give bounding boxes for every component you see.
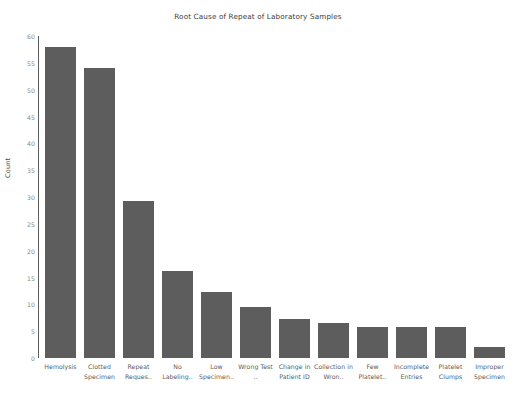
x-tick-label: Platelet Clumps	[431, 362, 471, 381]
y-tick-label: 10	[13, 301, 35, 308]
bar[interactable]	[45, 47, 76, 358]
bar[interactable]	[84, 68, 115, 358]
bar[interactable]	[162, 271, 193, 358]
bar[interactable]	[318, 323, 349, 358]
bar-slot	[314, 36, 353, 358]
y-tick-label: 50	[13, 86, 35, 93]
bar[interactable]	[396, 327, 427, 358]
y-tick-label: 30	[13, 194, 35, 201]
bar-slot	[275, 36, 314, 358]
x-tick-label: Low Specimen..	[197, 362, 237, 381]
y-tick-label: 15	[13, 274, 35, 281]
bar-chart-figure: Root Cause of Repeat of Laboratory Sampl…	[0, 0, 516, 410]
x-tick-label: Repeat Reques..	[119, 362, 159, 381]
y-axis-label-text: Count	[4, 158, 12, 178]
y-axis-spine	[38, 36, 39, 358]
y-tick-label: 5	[13, 328, 35, 335]
bar-slot	[197, 36, 236, 358]
chart-title: Root Cause of Repeat of Laboratory Sampl…	[0, 12, 516, 21]
bar[interactable]	[474, 347, 505, 358]
bar-slot	[41, 36, 80, 358]
plot-area: 051015202530354045505560	[41, 36, 509, 358]
bar[interactable]	[240, 307, 271, 358]
x-tick-label: Incomplete Entries	[392, 362, 432, 381]
bar[interactable]	[279, 319, 310, 358]
x-tick-label: Hemolysis	[41, 362, 81, 372]
y-tick-label: 60	[13, 33, 35, 40]
x-tick-label: Change in Patient ID	[275, 362, 315, 381]
y-tick-label: 45	[13, 113, 35, 120]
y-tick-label: 40	[13, 140, 35, 147]
y-tick-label: 20	[13, 247, 35, 254]
y-axis-label: Count	[4, 158, 12, 178]
y-tick-label: 35	[13, 167, 35, 174]
bar-slot	[470, 36, 509, 358]
bar-slot	[431, 36, 470, 358]
bar-slot	[392, 36, 431, 358]
x-tick-label: No Labeling..	[158, 362, 198, 381]
x-tick-label: Collection in Wron..	[314, 362, 354, 381]
bar-series	[41, 36, 509, 358]
bar-slot	[119, 36, 158, 358]
bar-slot	[236, 36, 275, 358]
y-tick-label: 55	[13, 59, 35, 66]
x-tick-label: Clotted Specimen	[80, 362, 120, 381]
bar-slot	[80, 36, 119, 358]
bar[interactable]	[357, 327, 388, 358]
bar-slot	[353, 36, 392, 358]
x-tick-label: Wrong Test ..	[236, 362, 276, 381]
bar[interactable]	[123, 201, 154, 358]
x-tick-label: Improper Specimen	[470, 362, 510, 381]
x-tick-labels: HemolysisClotted SpecimenRepeat Reques..…	[41, 362, 509, 408]
y-tick-label: 0	[13, 355, 35, 362]
bar[interactable]	[201, 292, 232, 358]
bar-slot	[158, 36, 197, 358]
y-tick-label: 25	[13, 220, 35, 227]
x-tick-label: Few Platelet..	[353, 362, 393, 381]
bar[interactable]	[435, 327, 466, 358]
